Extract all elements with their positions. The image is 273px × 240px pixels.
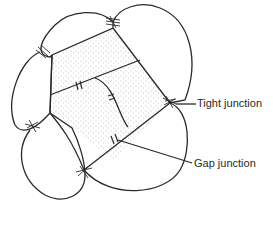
gap-junction-label: Gap junction [194, 157, 256, 169]
tight-junction-label: Tight junction [197, 97, 262, 109]
gap-junction-leader [118, 140, 192, 163]
cell-left [12, 52, 52, 130]
